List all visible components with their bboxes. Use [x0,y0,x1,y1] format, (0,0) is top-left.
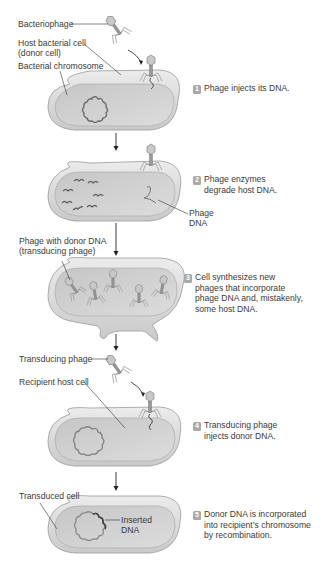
step-3-text-line2: phages that incorporate [184,283,303,294]
step-number-badge: 1 [193,85,201,94]
label-phage-donor-dna: Phage with donor DNA [19,236,106,247]
step-4: 4Transducing phage injects donor DNA. [193,420,277,441]
step-5-text-line3: by recombination. [193,530,311,541]
label-host-cell-sub: (donor cell) [18,48,61,59]
step-2-text-line2: degrade host DNA. [193,185,277,196]
step-5: 5Donor DNA is incorporated into recipien… [193,509,311,541]
label-inserted-dna: Inserted [121,515,152,526]
step-5-text-line2: into recipient’s chromosome [193,520,311,531]
step-number-badge: 2 [193,176,201,185]
step-3-text-line1: Cell synthesizes new [195,272,275,282]
step-2-text-line1: Phage enzymes [204,174,266,184]
step-number-badge: 5 [193,511,201,520]
phage-producing-cell [48,258,184,342]
step-number-badge: 4 [193,422,201,431]
label-phage-dna: Phage [189,208,214,219]
step-4-text-line2: injects donor DNA. [193,431,277,442]
step-3-text-line3: phage DNA and, mistakenly, [184,293,303,304]
label-host-cell: Host bacterial cell [18,38,86,49]
transduced-cell [48,496,181,553]
label-bacteriophage: Bacteriophage [18,19,73,30]
label-transducing-phage-paren: (transducing phage) [19,246,95,257]
label-transduced-cell: Transduced cell [19,491,79,502]
step-number-badge: 3 [184,274,192,283]
step-5-text-line1: Donor DNA is incorporated [204,509,306,519]
step-2: 2Phage enzymes degrade host DNA. [193,174,277,195]
donor-cell [48,70,180,130]
degrading-cell [48,161,181,221]
label-phage-dna-2: DNA [189,218,207,229]
step-1-text: Phage injects its DNA. [204,83,290,93]
step-3-text-line4: some host DNA. [184,304,303,315]
label-bacterial-chromosome: Bacterial chromosome [18,61,104,72]
step-4-text-line1: Transducing phage [204,420,277,430]
step-1: 1Phage injects its DNA. [193,83,290,94]
label-transducing-phage: Transducing phage [19,354,92,365]
step-3: 3Cell synthesizes new phages that incorp… [184,272,303,314]
label-recipient-host-cell: Recipient host cell [19,377,89,388]
label-inserted-dna-2: DNA [121,525,139,536]
